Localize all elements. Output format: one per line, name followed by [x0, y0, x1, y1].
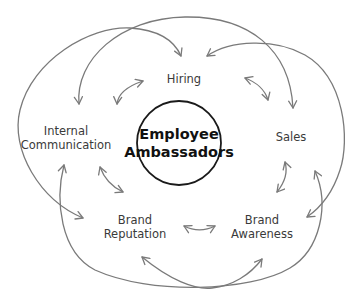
- short-arrow-reputation-internal: [100, 167, 123, 192]
- center-label: Employee Ambassadors: [124, 125, 234, 161]
- node-internal-communication-line1: Internal: [21, 124, 112, 138]
- node-brand-awareness-line2: Awareness: [231, 227, 293, 241]
- node-internal-communication: Internal Communication: [21, 124, 112, 152]
- short-arrow-hiring-sales: [245, 78, 268, 100]
- node-internal-communication-line2: Communication: [21, 138, 112, 152]
- node-sales: Sales: [276, 130, 307, 144]
- node-sales-line1: Sales: [276, 130, 307, 144]
- short-arrow-internal-hiring: [117, 81, 143, 104]
- short-arrow-sales-awareness: [277, 162, 286, 192]
- arc-internal-sales: [79, 17, 293, 108]
- node-brand-reputation-line2: Reputation: [104, 227, 167, 241]
- node-hiring-line1: Hiring: [167, 72, 201, 86]
- node-hiring: Hiring: [167, 72, 201, 86]
- node-brand-awareness: Brand Awareness: [231, 213, 293, 241]
- center-label-line2: Ambassadors: [124, 143, 234, 161]
- diagram-canvas: Employee Ambassadors Hiring Internal Com…: [0, 0, 359, 305]
- short-arrow-awareness-reputation: [184, 226, 215, 230]
- node-brand-reputation-line1: Brand: [104, 213, 167, 227]
- center-label-line1: Employee: [124, 125, 234, 143]
- node-brand-awareness-line1: Brand: [231, 213, 293, 227]
- node-brand-reputation: Brand Reputation: [104, 213, 167, 241]
